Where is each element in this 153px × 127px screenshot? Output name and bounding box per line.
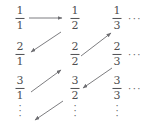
column-ellipsis-1: · · · [18,103,21,118]
column-ellipsis-2: · · · [73,103,76,118]
fraction-numerator: 3 [113,75,122,87]
fraction-denominator: 2 [71,20,80,32]
fraction-3-3: 3 3 [113,75,122,101]
arrow-diag-3-2-to-4-1 [35,101,63,120]
fraction-numerator: 2 [113,41,122,53]
fraction-2-1: 2 1 [16,41,25,67]
fraction-numerator: 1 [113,5,122,17]
fraction-1-1: 1 1 [16,5,25,31]
fraction-denominator: 3 [113,20,122,32]
fraction-numerator: 3 [16,75,25,87]
fraction-3-1: 3 1 [16,75,25,101]
fraction-1-3: 1 3 [113,5,122,31]
row-ellipsis-1: ··· [128,13,142,24]
column-ellipsis-3: · · · [115,103,118,118]
arrow-diag-2-3-to-3-2 [83,68,112,88]
ellipsis-dot: · [115,113,118,118]
arrow-diag-2-2-to-1-3 [81,33,111,56]
cantor-enumeration-figure: 1 1 1 2 1 3 2 1 2 2 2 3 3 1 3 2 3 [0,0,153,127]
fraction-numerator: 3 [71,75,80,87]
fraction-numerator: 2 [71,41,80,53]
ellipsis-dot: · [73,113,76,118]
row-ellipsis-2: ··· [128,49,142,60]
fraction-denominator: 1 [16,20,25,32]
arrow-diag-1-2-to-2-1 [31,32,61,52]
fraction-denominator: 2 [71,56,80,68]
fraction-numerator: 2 [16,41,25,53]
fraction-numerator: 1 [16,5,25,17]
fraction-2-3: 2 3 [113,41,122,67]
row-ellipsis-3: ··· [128,83,142,94]
fraction-2-2: 2 2 [71,41,80,67]
fraction-denominator: 1 [16,56,25,68]
arrow-diag-3-1-to-2-2 [31,70,61,92]
fraction-3-2: 3 2 [71,75,80,101]
ellipsis-dot: · [18,113,21,118]
fraction-numerator: 1 [71,5,80,17]
fraction-1-2: 1 2 [71,5,80,31]
fraction-denominator: 3 [113,56,122,68]
